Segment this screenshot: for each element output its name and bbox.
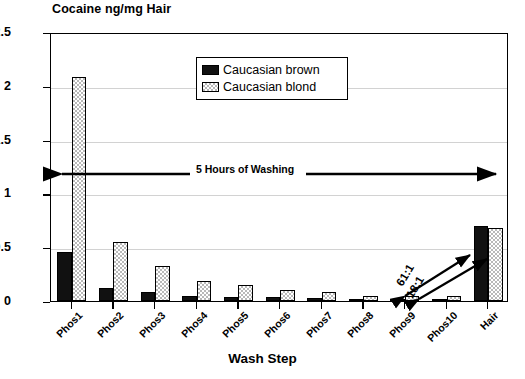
bar-phos7-blond: [322, 292, 337, 301]
x-tick-mark: [196, 302, 197, 309]
bar-phos5-blond: [238, 285, 253, 301]
bar-phos4-brown: [182, 296, 197, 301]
x-tick-label-phos9: Phos9: [387, 309, 418, 340]
y-tick-mark: [43, 33, 50, 34]
x-tick-label-phos1: Phos1: [54, 309, 85, 340]
legend-item-caucasian-blond: Caucasian blond: [202, 78, 342, 95]
y-tick-label: 0: [0, 294, 11, 308]
y-tick-mark: [43, 248, 50, 249]
bar-phos8-blond: [363, 296, 378, 301]
bar-phos4-blond: [197, 281, 212, 301]
x-tick-label-phos8: Phos8: [345, 309, 376, 340]
x-tick-mark: [112, 302, 113, 309]
x-tick-label-hair: Hair: [478, 309, 501, 332]
x-tick-mark: [446, 302, 447, 309]
y-tick-mark: [43, 87, 50, 88]
legend-label-blond: Caucasian blond: [223, 80, 316, 94]
bar-phos8-brown: [349, 299, 364, 301]
legend-label-brown: Caucasian brown: [223, 63, 320, 77]
annotation-washing-label: 5 Hours of Washing: [193, 163, 297, 175]
y-tick-mark: [43, 194, 50, 195]
bar-phos2-brown: [99, 288, 114, 301]
bar-phos6-brown: [266, 297, 281, 301]
bar-hair-brown: [474, 226, 489, 301]
bar-phos10-blond: [447, 296, 462, 301]
y-tick-label: 2: [0, 79, 11, 93]
bar-phos1-blond: [72, 77, 87, 301]
x-tick-mark: [237, 302, 238, 309]
x-tick-mark: [404, 302, 405, 309]
x-tick-mark: [71, 302, 72, 309]
bar-hair-blond: [488, 228, 503, 301]
bar-phos1-brown: [57, 252, 72, 301]
bar-phos2-blond: [113, 242, 128, 301]
y-tick-mark: [43, 141, 50, 142]
x-tick-mark: [154, 302, 155, 309]
legend-swatch-blond-icon: [202, 82, 219, 92]
y-tick-label: 1.5: [0, 133, 11, 147]
legend-swatch-brown-icon: [202, 65, 219, 75]
legend-item-caucasian-brown: Caucasian brown: [202, 61, 342, 78]
x-tick-label-phos4: Phos4: [178, 309, 209, 340]
bar-phos3-blond: [155, 266, 170, 302]
cocaine-hair-bar-chart: Cocaine ng/mg Hair 00.511.522.5 Phos1Pho…: [0, 0, 525, 379]
x-axis-title: Wash Step: [0, 351, 525, 366]
x-tick-label-phos10: Phos10: [424, 309, 459, 344]
y-tick-label: 2.5: [0, 25, 11, 39]
bar-phos10-brown: [432, 299, 447, 301]
x-tick-mark: [279, 302, 280, 309]
y-tick-label: 1: [0, 186, 11, 200]
x-tick-label-phos7: Phos7: [303, 309, 334, 340]
x-tick-mark: [362, 302, 363, 309]
x-tick-label-phos6: Phos6: [262, 309, 293, 340]
bar-phos9-brown: [390, 299, 405, 301]
x-tick-mark: [321, 302, 322, 309]
bar-phos6-blond: [280, 290, 295, 301]
y-tick-label: 0.5: [0, 240, 11, 254]
x-tick-label-phos3: Phos3: [137, 309, 168, 340]
chart-title: Cocaine ng/mg Hair: [52, 2, 171, 16]
x-tick-mark: [487, 302, 488, 309]
y-tick-mark: [43, 302, 50, 303]
bar-phos7-brown: [307, 298, 322, 301]
bar-phos5-brown: [224, 297, 239, 301]
bar-phos3-brown: [141, 292, 156, 301]
legend: Caucasian brown Caucasian blond: [196, 57, 348, 100]
x-tick-label-phos2: Phos2: [95, 309, 126, 340]
x-tick-label-phos5: Phos5: [220, 309, 251, 340]
